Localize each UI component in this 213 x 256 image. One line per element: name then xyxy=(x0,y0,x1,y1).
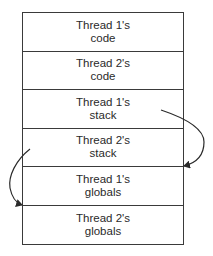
segment-label-line1: Thread 1's xyxy=(76,173,130,186)
segment-thread1-code: Thread 1's code xyxy=(23,13,183,52)
memory-layout-diagram: Thread 1's code Thread 2's code Thread 1… xyxy=(22,12,184,245)
segment-label-line2: globals xyxy=(85,225,121,238)
segment-label-line1: Thread 2's xyxy=(76,212,130,225)
segment-label-line2: code xyxy=(91,32,116,45)
segment-thread2-stack: Thread 2's stack xyxy=(23,129,183,168)
segment-label-line2: code xyxy=(91,70,116,83)
segment-label-line2: stack xyxy=(90,109,117,122)
segment-thread1-globals: Thread 1's globals xyxy=(23,167,183,206)
segment-label-line2: stack xyxy=(90,147,117,160)
segment-label-line1: Thread 1's xyxy=(76,96,130,109)
segment-label-line2: globals xyxy=(85,186,121,199)
segment-thread2-globals: Thread 2's globals xyxy=(23,206,183,245)
segment-thread1-stack: Thread 1's stack xyxy=(23,90,183,129)
segment-label-line1: Thread 1's xyxy=(76,19,130,32)
segment-thread2-code: Thread 2's code xyxy=(23,52,183,91)
segment-label-line1: Thread 2's xyxy=(76,134,130,147)
segment-label-line1: Thread 2's xyxy=(76,57,130,70)
